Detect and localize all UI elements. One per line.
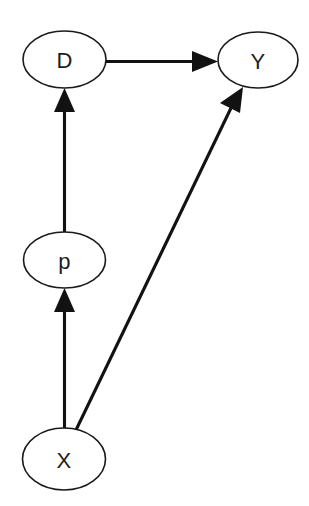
node-d-label: D bbox=[56, 48, 72, 73]
edge-x-to-p bbox=[54, 288, 75, 432]
causal-diagram-canvas: D Y p X bbox=[0, 0, 309, 506]
edge-d-to-y bbox=[106, 51, 218, 72]
node-x-label: X bbox=[57, 448, 72, 473]
node-x[interactable]: X bbox=[23, 428, 106, 490]
edge-x-to-p-arrowhead bbox=[54, 288, 75, 312]
node-d[interactable]: D bbox=[23, 31, 106, 88]
node-p-label: p bbox=[58, 249, 70, 274]
node-p[interactable]: p bbox=[24, 232, 106, 288]
edge-d-to-y-arrowhead bbox=[192, 51, 218, 72]
edge-p-to-d bbox=[54, 88, 75, 232]
node-y-label: Y bbox=[251, 49, 266, 74]
diagram-svg: D Y p X bbox=[0, 0, 309, 506]
node-y[interactable]: Y bbox=[218, 32, 298, 88]
edge-p-to-d-arrowhead bbox=[54, 88, 75, 112]
